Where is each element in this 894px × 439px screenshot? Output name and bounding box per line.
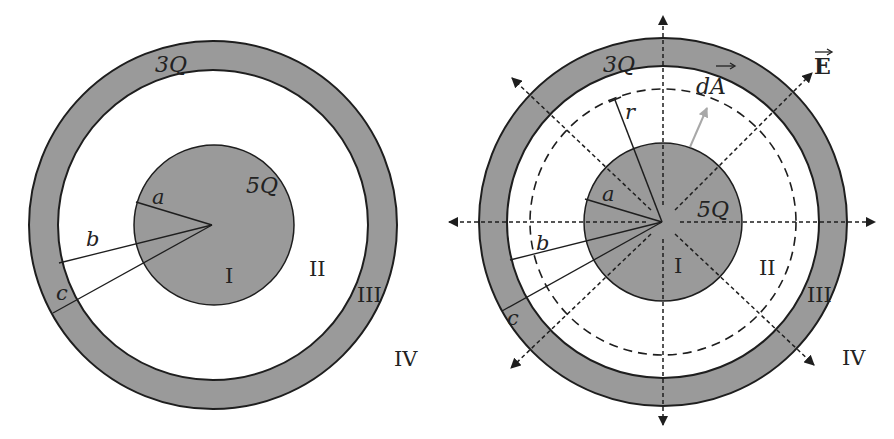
svg-text:E: E <box>814 53 831 79</box>
sphere-charge-label: 5Q <box>246 173 278 198</box>
sphere-charge-label: 5Q <box>697 197 729 222</box>
svg-text:dA: dA <box>696 74 726 99</box>
region-1-label: I <box>674 254 682 278</box>
field-vector-label: E <box>814 49 832 79</box>
region-4-label: IV <box>394 347 418 371</box>
radius-a-label: a <box>152 185 165 209</box>
region-3-label: III <box>357 283 382 307</box>
region-4-label: IV <box>842 346 866 370</box>
radius-b-label: b <box>86 227 99 251</box>
region-1-label: I <box>225 264 233 288</box>
region-2-label: II <box>309 257 326 281</box>
radius-b-label: b <box>536 231 549 255</box>
region-3-label: III <box>807 283 832 307</box>
gauss-law-figure: 3Q 5Q a b c I II III IV <box>0 0 894 439</box>
left-panel: 3Q 5Q a b c I II III IV <box>29 41 418 409</box>
region-2-label: II <box>759 256 776 280</box>
right-panel: 3Q r dA E 5Q a b c I II III IV <box>449 16 875 425</box>
shell-charge-label: 3Q <box>603 52 635 77</box>
radius-a-label: a <box>602 182 615 206</box>
inner-sphere <box>134 145 294 305</box>
radius-c-label: c <box>507 306 519 330</box>
shell-charge-label: 3Q <box>155 52 187 77</box>
radius-c-label: c <box>56 281 68 305</box>
